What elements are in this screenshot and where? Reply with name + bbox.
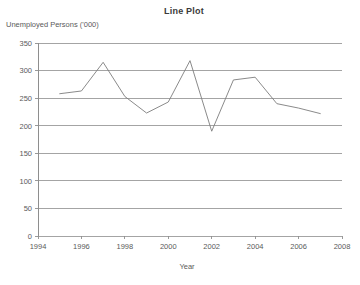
gridlines-group (38, 43, 342, 236)
y-tick-label: 50 (24, 204, 32, 213)
y-tick-label: 300 (19, 66, 32, 75)
y-tick-label: 200 (19, 122, 32, 131)
x-tick-label: 1994 (30, 242, 47, 251)
x-tick-label: 2006 (290, 242, 307, 251)
y-tick-label: 250 (19, 94, 32, 103)
x-tick-label: 2008 (334, 242, 351, 251)
y-tick-label: 0 (28, 232, 32, 241)
y-tick-label: 100 (19, 177, 32, 186)
y-tick-group: 050100150200250300350 (19, 39, 38, 241)
y-tick-label: 350 (19, 39, 32, 48)
x-axis-label: Year (0, 262, 360, 271)
plot-area: 050100150200250300350 199419961998200020… (0, 0, 360, 285)
x-tick-label: 2004 (247, 242, 264, 251)
y-tick-label: 150 (19, 149, 32, 158)
x-tick-group: 19941996199820002002200420062008 (30, 236, 351, 251)
x-tick-label: 1996 (73, 242, 90, 251)
series-line-unemployed-persons (60, 61, 321, 132)
x-tick-label: 2000 (160, 242, 177, 251)
line-chart: Line Plot Unemployed Persons ('000) 0501… (0, 0, 360, 285)
x-tick-label: 2002 (203, 242, 220, 251)
x-tick-label: 1998 (117, 242, 134, 251)
